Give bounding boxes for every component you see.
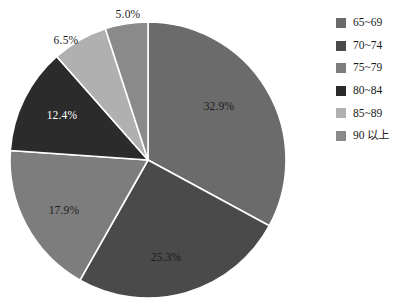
pie-slice-value-label: 12.4% <box>47 110 78 122</box>
pie-slice-value-label: 32.9% <box>204 101 235 113</box>
chart-legend: 65~6970~7475~7980~8485~8990 以上 <box>336 16 416 152</box>
legend-item[interactable]: 80~84 <box>336 84 416 98</box>
pie-slice-value-label: 25.3% <box>151 252 182 264</box>
pie-slice-group <box>10 22 286 298</box>
pie-chart-figure: 32.9%25.3%17.9%12.4%6.5%5.0% 65~6970~747… <box>0 0 416 300</box>
legend-item-list: 65~6970~7475~7980~8485~8990 以上 <box>336 16 416 143</box>
pie-slice-value-label: 5.0% <box>116 9 141 21</box>
legend-item-label: 75~79 <box>353 62 382 74</box>
legend-item[interactable]: 75~79 <box>336 61 416 75</box>
legend-swatch-icon <box>336 41 346 51</box>
legend-item-label: 70~74 <box>353 40 382 52</box>
legend-item[interactable]: 85~89 <box>336 106 416 120</box>
legend-swatch-icon <box>336 131 346 141</box>
pie-slice-value-label: 17.9% <box>49 205 80 217</box>
legend-swatch-icon <box>336 63 346 73</box>
legend-item[interactable]: 90 以上 <box>336 129 416 143</box>
legend-item-label: 80~84 <box>353 85 382 97</box>
legend-item-label: 85~89 <box>353 108 382 120</box>
pie-plot-area: 32.9%25.3%17.9%12.4%6.5%5.0% <box>0 0 300 300</box>
legend-swatch-icon <box>336 86 346 96</box>
legend-item[interactable]: 70~74 <box>336 39 416 53</box>
pie-slice-value-label: 6.5% <box>54 35 79 47</box>
legend-item[interactable]: 65~69 <box>336 16 416 30</box>
legend-item-label: 65~69 <box>353 17 382 29</box>
legend-swatch-icon <box>336 18 346 28</box>
legend-swatch-icon <box>336 108 346 118</box>
legend-item-label: 90 以上 <box>353 130 389 142</box>
